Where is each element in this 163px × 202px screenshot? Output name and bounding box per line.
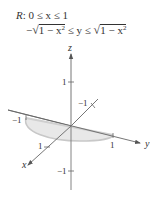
z-axis-label: z [67, 42, 72, 53]
x-axis-label: x [21, 159, 27, 170]
z-tick-label-1: 1 [62, 77, 67, 87]
y-axis-label: y [144, 138, 150, 149]
x-tick-label-1: 1 [38, 141, 43, 151]
y-tick-label-neg1: −1 [12, 115, 22, 125]
y-tick-label-1: 1 [110, 140, 115, 150]
z-tick-label-neg1: −1 [57, 166, 67, 176]
x-tick-label-neg1: −1 [78, 98, 88, 108]
3d-axes-diagram: z y x 1 −1 −1 1 −1 1 [0, 0, 163, 202]
